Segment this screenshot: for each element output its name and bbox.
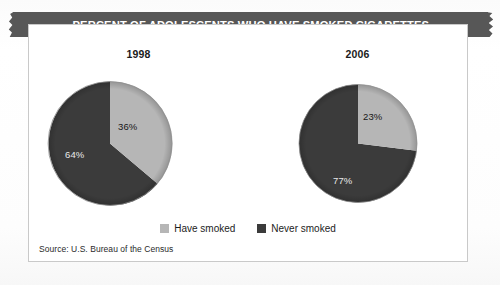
legend-item-never-smoked: Never smoked — [257, 223, 335, 234]
legend-swatch-never-smoked — [257, 224, 266, 233]
pie-value-never-smoked-2006: 77% — [333, 175, 352, 186]
pie-chart-1998: 36% 64% — [45, 79, 174, 208]
panel-year-label-1998: 1998 — [29, 48, 248, 60]
pie-edge-shading-1998 — [48, 82, 172, 206]
pie-svg-1998 — [45, 79, 174, 208]
pie-edge-shading-2006 — [298, 84, 416, 202]
source-note: Source: U.S. Bureau of the Census — [39, 244, 173, 254]
pie-value-never-smoked-1998: 64% — [65, 149, 84, 160]
legend-swatch-have-smoked — [160, 224, 169, 233]
panel-year-label-2006: 2006 — [248, 48, 467, 60]
chart-legend: Have smoked Never smoked — [29, 223, 467, 234]
legend-label-never-smoked: Never smoked — [271, 223, 335, 234]
pie-chart-2006: 23% 77% — [296, 82, 419, 205]
pie-value-have-smoked-2006: 23% — [363, 111, 382, 122]
pie-value-have-smoked-1998: 36% — [118, 121, 137, 132]
pie-svg-2006 — [296, 82, 419, 205]
legend-label-have-smoked: Have smoked — [174, 223, 235, 234]
chart-frame: 1998 36% 64% 2006 — [28, 24, 468, 262]
legend-item-have-smoked: Have smoked — [160, 223, 235, 234]
